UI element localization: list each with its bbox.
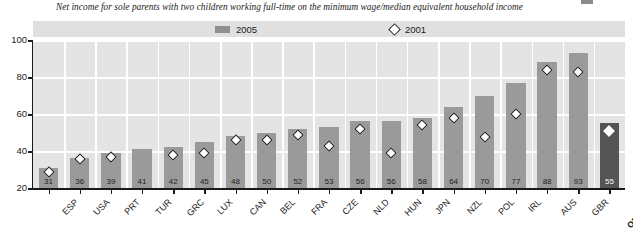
gridline-vertical xyxy=(220,40,222,188)
y-tick-mark xyxy=(28,151,33,153)
x-label-usa: USA xyxy=(91,197,111,217)
y-tick-label: 80 xyxy=(0,71,27,82)
x-label-prt: PRT xyxy=(122,197,142,217)
x-label-can: CAN xyxy=(247,197,268,218)
x-tick-mark xyxy=(360,189,361,194)
x-label-pol: POL xyxy=(496,197,516,217)
bar-aus: 88 xyxy=(537,62,556,188)
x-tick-mark xyxy=(454,189,455,194)
bar-value-label: 64 xyxy=(444,177,463,186)
x-label-nld: NLD xyxy=(371,197,391,217)
y-tick-mark xyxy=(28,114,33,116)
bar-irl: 77 xyxy=(506,83,525,188)
bar-value-label: 45 xyxy=(195,177,214,186)
gridline-horizontal xyxy=(33,40,625,42)
gridline-vertical xyxy=(95,40,97,188)
bar-value-label: 41 xyxy=(132,177,151,186)
bar-value-label: 77 xyxy=(506,177,525,186)
legend-label-2001: 2001 xyxy=(405,24,426,35)
x-label-hun: HUN xyxy=(403,197,424,218)
x-label-aus: AUS xyxy=(559,197,579,217)
y-tick-mark xyxy=(28,77,33,79)
gridline-vertical xyxy=(158,40,160,188)
x-label-nzl: NZL xyxy=(465,197,484,216)
gridline-vertical xyxy=(438,40,440,188)
gridline-vertical xyxy=(407,40,409,188)
x-tick-mark xyxy=(204,189,205,194)
chart-subtitle: Net income for sole parents with two chi… xyxy=(56,2,616,12)
gridline-vertical xyxy=(345,40,347,188)
legend-label-2005: 2005 xyxy=(236,24,257,35)
gridline-vertical xyxy=(563,40,565,188)
x-tick-mark xyxy=(422,189,423,194)
legend-item-2001: 2001 xyxy=(390,24,426,35)
bar-swatch-icon xyxy=(215,26,230,33)
bar-tur: 41 xyxy=(132,149,151,188)
bar-value-label: 31 xyxy=(39,177,58,186)
y-tick-label: 60 xyxy=(0,108,27,119)
x-tick-mark xyxy=(173,189,174,194)
bar-value-label: 56 xyxy=(382,177,401,186)
gridline-vertical xyxy=(500,40,502,188)
x-label-bel: BEL xyxy=(278,197,297,216)
x-tick-mark xyxy=(578,189,579,194)
y-tick-label: 40 xyxy=(0,145,27,156)
x-label-cze: CZE xyxy=(340,197,360,217)
plot-area: 31363941424548505253565658647077889355 xyxy=(33,40,625,188)
bar-value-label: 55 xyxy=(600,177,619,186)
x-tick-mark xyxy=(547,189,548,194)
bar-value-label: 56 xyxy=(350,177,369,186)
x-label-fra: FRA xyxy=(309,197,329,217)
bar-value-label: 48 xyxy=(226,177,245,186)
x-tick-mark xyxy=(236,189,237,194)
bar-value-label: 53 xyxy=(319,177,338,186)
x-tick-mark xyxy=(49,189,50,194)
bar-value-label: 36 xyxy=(70,177,89,186)
bar-value-label: 58 xyxy=(413,177,432,186)
x-tick-mark xyxy=(391,189,392,194)
legend-item-2005: 2005 xyxy=(215,24,257,35)
bar-value-label: 88 xyxy=(537,177,556,186)
gridline-vertical xyxy=(282,40,284,188)
gridline-vertical xyxy=(64,40,66,188)
x-tick-mark xyxy=(609,189,610,194)
gridline-vertical xyxy=(126,40,128,188)
x-label-grc: GRC xyxy=(185,197,206,218)
diamond-marker-icon xyxy=(388,23,401,36)
gridline-vertical xyxy=(313,40,315,188)
x-tick-mark xyxy=(80,189,81,194)
chart-figure: Net income for sole parents with two chi… xyxy=(0,0,633,237)
gridline-vertical xyxy=(251,40,253,188)
bar-cze: 53 xyxy=(319,127,338,188)
x-tick-mark xyxy=(329,189,330,194)
y-tick-label: 100 xyxy=(0,34,27,45)
gridline-vertical xyxy=(469,40,471,188)
x-tick-mark xyxy=(516,189,517,194)
x-label-esp: ESP xyxy=(60,197,80,217)
bar-value-label: 70 xyxy=(475,177,494,186)
chart-legend: 2005 2001 xyxy=(33,21,625,37)
gridline-horizontal xyxy=(33,114,625,116)
bar-value-label: 52 xyxy=(288,177,307,186)
bar-value-label: 39 xyxy=(101,177,120,186)
x-label-oecd18: OECD18 xyxy=(625,199,633,230)
x-label-lux: LUX xyxy=(215,197,234,216)
x-tick-mark xyxy=(267,189,268,194)
y-tick-mark xyxy=(28,40,33,42)
x-tick-mark xyxy=(111,189,112,194)
bar-value-label: 42 xyxy=(164,177,183,186)
x-label-irl: IRL xyxy=(526,197,543,214)
x-tick-mark xyxy=(142,189,143,194)
x-tick-mark xyxy=(298,189,299,194)
bar-value-label: 50 xyxy=(257,177,276,186)
gridline-vertical xyxy=(189,40,191,188)
bar-value-label: 93 xyxy=(569,177,588,186)
x-tick-mark xyxy=(485,189,486,194)
gridline-vertical xyxy=(594,40,596,188)
x-label-jpn: JPN xyxy=(433,197,452,216)
x-label-gbr: GBR xyxy=(590,197,611,218)
y-tick-label: 20 xyxy=(0,182,27,193)
gridline-vertical xyxy=(532,40,534,188)
x-label-tur: TUR xyxy=(153,197,173,217)
gridline-horizontal xyxy=(33,77,625,79)
